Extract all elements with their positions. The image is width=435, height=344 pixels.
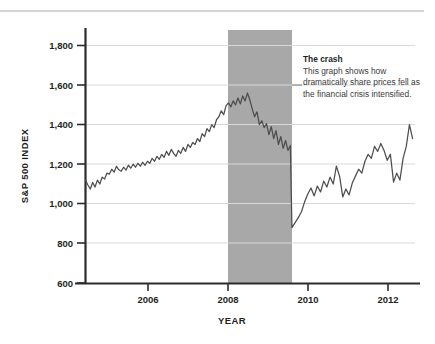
ytick-label-1000: 1,000 bbox=[49, 198, 73, 209]
x-axis-title: YEAR bbox=[218, 315, 246, 326]
ytick-label-600: 600 bbox=[57, 278, 73, 289]
ytick-label-800: 800 bbox=[57, 238, 73, 249]
xtick-label-2012: 2012 bbox=[377, 294, 398, 305]
sp500-line-chart: 1,800 1,600 1,400 1,200 1,000 800 600 20… bbox=[0, 0, 435, 344]
ytick-label-1200: 1,200 bbox=[49, 159, 73, 170]
xtick-label-2008: 2008 bbox=[217, 294, 238, 305]
crash-period-shaded-band bbox=[228, 30, 292, 283]
y-axis-tick-marks bbox=[77, 46, 85, 284]
ytick-label-1600: 1,600 bbox=[49, 80, 73, 91]
crash-annotation: The crash This graph shows how dramatica… bbox=[303, 54, 425, 100]
ytick-label-1800: 1,800 bbox=[49, 40, 73, 51]
annotation-body: This graph shows how dramatically share … bbox=[303, 66, 425, 100]
chart-figure: 1,800 1,600 1,400 1,200 1,000 800 600 20… bbox=[0, 0, 435, 344]
ytick-label-1400: 1,400 bbox=[49, 119, 73, 130]
xtick-label-2010: 2010 bbox=[297, 294, 318, 305]
y-axis-title: S&P 500 INDEX bbox=[19, 128, 30, 203]
annotation-title: The crash bbox=[303, 54, 425, 65]
xtick-label-2006: 2006 bbox=[137, 294, 158, 305]
